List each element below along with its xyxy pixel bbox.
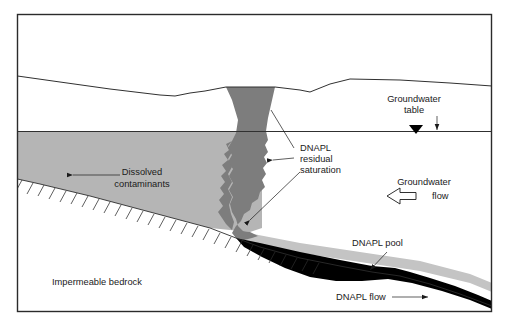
groundwater-flow-label-line2: flow <box>432 191 449 201</box>
groundwater-table-label-line1: Groundwater <box>387 94 441 104</box>
dnapl-residual-label-line2: residual <box>300 154 333 164</box>
impermeable-bedrock-label: Impermeable bedrock <box>52 277 142 287</box>
dnapl-pool-label: DNAPL pool <box>352 238 403 248</box>
dnapl-flow-label: DNAPL flow <box>336 292 386 302</box>
groundwater-table-label-line2: table <box>404 105 424 115</box>
dnapl-residual-label-line1: DNAPL <box>300 143 331 153</box>
figure-root: Groundwater table DNAPL residual saturat… <box>0 0 509 328</box>
cross-section-diagram: Groundwater table DNAPL residual saturat… <box>0 0 509 328</box>
dissolved-contaminants-label-line1: Dissolved <box>122 167 162 177</box>
dissolved-contaminants-label-line2: contaminants <box>114 179 170 189</box>
groundwater-flow-label-line1: Groundwater <box>397 177 451 187</box>
dnapl-residual-label-line3: saturation <box>300 165 341 175</box>
